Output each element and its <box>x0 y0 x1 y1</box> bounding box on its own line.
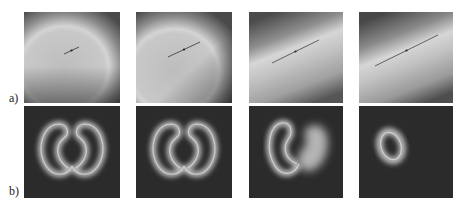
row-b-panel-3 <box>249 106 343 198</box>
row-b-panel-1 <box>24 106 120 198</box>
row-a-panel-2 <box>136 12 232 103</box>
row-b-panel-4 <box>359 106 453 198</box>
row-a-label: a) <box>9 92 18 104</box>
row-a-panel-4 <box>359 12 453 103</box>
row-a-panel-1 <box>24 12 120 103</box>
figure: a) b) <box>0 0 465 210</box>
row-a-panel-3 <box>249 12 343 103</box>
row-b-panel-2 <box>136 106 232 198</box>
row-b-label: b) <box>9 185 19 197</box>
